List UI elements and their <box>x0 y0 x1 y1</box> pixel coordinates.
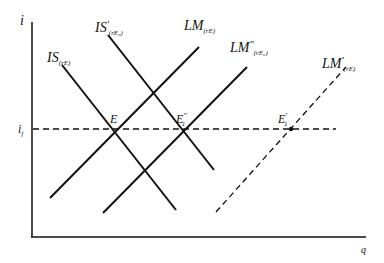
lm-prime-curve <box>216 67 346 212</box>
point-e1-double-prime-label: E''1 <box>175 112 187 128</box>
is-prime-curve-label: IS'(rE₀) <box>94 19 124 37</box>
lm-prime-curve-label: LM'(rE) <box>321 55 356 73</box>
x-axis-label: q <box>361 244 366 255</box>
point-e-label: E <box>109 112 118 126</box>
lm-double-prime-curve <box>103 67 247 213</box>
y-axis-label: i <box>20 13 24 28</box>
is-prime-curve <box>108 35 214 170</box>
equilibrium-point-e1-prime <box>289 127 293 131</box>
lm-curve-label: LM(rE) <box>183 18 216 35</box>
lm-double-prime-curve-label: LM''(rE₀) <box>229 39 268 57</box>
point-e1-prime-label: E'1 <box>277 112 288 128</box>
is-lm-diagram: i q if IS(rE) IS'(rE₀) LM(rE) LM''(rE₀) … <box>0 0 384 263</box>
is-curve-label: IS(rE) <box>46 50 71 67</box>
reference-rate-label: if <box>18 122 24 138</box>
